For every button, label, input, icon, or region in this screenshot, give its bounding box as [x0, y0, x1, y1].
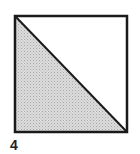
square-diagram [0, 0, 140, 154]
figure-label: 4 [10, 138, 18, 152]
